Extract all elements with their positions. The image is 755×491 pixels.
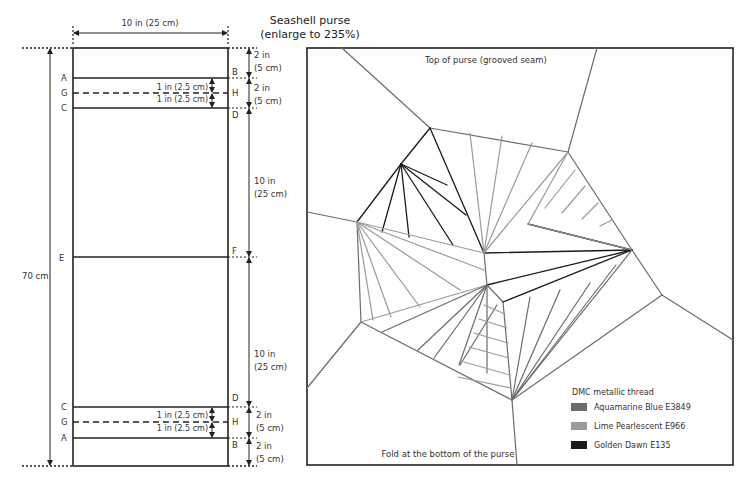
layout-labels: 10 in (25 cm) 70 cm A G C E C G A B H D …: [22, 18, 287, 464]
dim-mid-1-line1: 10 in: [254, 176, 275, 186]
dim-bot-2-line1: 2 in: [256, 441, 272, 451]
dim-mid-2-line1: 10 in: [254, 349, 275, 359]
title-line-1: Seashell purse: [270, 14, 351, 27]
legend-swatch-golden: [571, 441, 587, 449]
label-a-top: A: [61, 73, 67, 83]
legend-label-aquamarine: Aquamarine Blue E3849: [594, 403, 691, 412]
dim-bot-1-line1: 2 in: [256, 410, 272, 420]
inner-dim-top-upper: 1 in (2.5 cm): [157, 83, 208, 92]
dim-mid-2-line2: (25 cm): [254, 362, 287, 372]
dim-top-1-line1: 2 in: [254, 50, 270, 60]
legend-title: DMC metallic thread: [572, 388, 654, 397]
aquamarine-fan-bottom: [512, 250, 662, 400]
pattern-diagram: Seashell purse (enlarge to 235%): [0, 0, 755, 491]
label-h-top: H: [232, 88, 238, 98]
inner-dim-bottom-lower: 1 in (2.5 cm): [157, 424, 208, 433]
label-d-top: D: [232, 110, 239, 120]
label-c-bottom: C: [61, 402, 67, 412]
label-h-bottom: H: [232, 417, 238, 427]
inner-dim-bottom-upper: 1 in (2.5 cm): [157, 411, 208, 420]
label-c-top: C: [61, 103, 67, 113]
title-line-2: (enlarge to 235%): [260, 28, 360, 41]
dim-top-1-line2: (5 cm): [254, 63, 282, 73]
label-b-top: B: [232, 67, 238, 77]
label-b-bottom: B: [232, 440, 238, 450]
legend-swatch-lime: [571, 422, 587, 430]
total-height-label: 70 cm: [22, 271, 48, 281]
legend-swatch-aquamarine: [571, 403, 587, 411]
dim-top-2-line1: 2 in: [254, 83, 270, 93]
label-e: E: [59, 253, 64, 263]
dim-mid-1-line2: (25 cm): [254, 189, 287, 199]
label-g-bottom: G: [61, 417, 68, 427]
label-a-bottom: A: [61, 433, 67, 443]
dim-bot-2-line2: (5 cm): [256, 454, 284, 464]
lime-fan-top: [470, 133, 632, 253]
dim-top-2-line2: (5 cm): [254, 96, 282, 106]
dim-bot-1-line2: (5 cm): [256, 423, 284, 433]
top-of-purse-label: Top of purse (grooved seam): [424, 55, 547, 65]
label-f: F: [232, 246, 237, 256]
legend-label-golden: Golden Dawn E135: [594, 441, 670, 450]
aquamarine-fan-center: [382, 285, 497, 373]
width-label: 10 in (25 cm): [121, 18, 178, 28]
lime-fan-left: [357, 222, 487, 322]
legend-label-lime: Lime Pearlescent E966: [594, 422, 685, 431]
inner-dim-top-lower: 1 in (2.5 cm): [157, 95, 208, 104]
layout-diagram: [22, 26, 257, 466]
label-d-bottom: D: [232, 393, 239, 403]
diagram-title: Seashell purse (enlarge to 235%): [260, 14, 360, 41]
thread-legend: DMC metallic thread Aquamarine Blue E384…: [571, 388, 691, 450]
bottom-fold-label: Fold at the bottom of the purse: [381, 449, 514, 459]
golden-fan-upper: [357, 128, 632, 302]
label-g-top: G: [61, 88, 68, 98]
